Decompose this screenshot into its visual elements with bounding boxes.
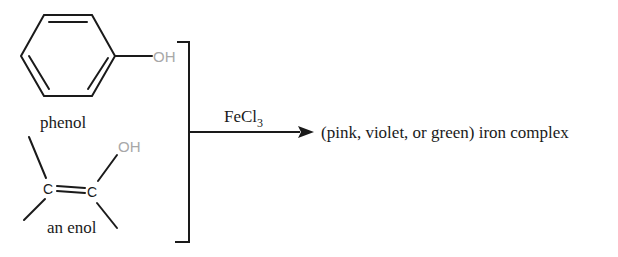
enol-oh-label: OH xyxy=(118,138,141,155)
benzene-ring xyxy=(21,15,115,96)
arrow-head-icon xyxy=(298,126,314,138)
reagent-subscript: 3 xyxy=(257,116,263,130)
product-label: (pink, violet, or green) iron complex xyxy=(321,123,569,142)
enol-bond-top-left xyxy=(29,137,46,178)
enol-oh-bond xyxy=(98,155,117,181)
reactant-bracket xyxy=(175,42,189,242)
enol-double-bond-lower xyxy=(57,191,85,193)
phenol-label: phenol xyxy=(40,113,87,132)
enol-double-bond-upper xyxy=(57,186,85,188)
reagent-label: FeCl3 xyxy=(224,107,263,130)
reaction-scheme-svg: OH phenol C C OH an enol FeCl3 (pink, vi… xyxy=(0,0,618,257)
enol-label: an enol xyxy=(47,218,97,237)
enol-carbon-2: C xyxy=(87,184,97,200)
enol-bond-bottom-right xyxy=(97,203,117,228)
reaction-arrow xyxy=(189,126,314,138)
reaction-diagram: OH phenol C C OH an enol FeCl3 (pink, vi… xyxy=(0,0,618,257)
enol-bond-bottom-left xyxy=(24,199,45,220)
enol-structure xyxy=(24,137,117,228)
phenol-oh-label: OH xyxy=(153,48,176,65)
ring-double-bond-left xyxy=(29,56,49,89)
enol-carbon-1: C xyxy=(43,181,53,197)
phenol-structure xyxy=(21,15,152,96)
